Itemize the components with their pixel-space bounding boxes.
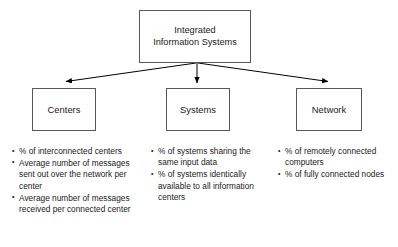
- node-integrated-information-systems[interactable]: Integrated Information Systems: [139, 10, 251, 63]
- bullet-item: Average number of messages sent out over…: [12, 158, 138, 192]
- bullet-item: % of remotely connected computers: [278, 146, 398, 169]
- bullet-list: % of remotely connected computers% of fu…: [278, 146, 398, 181]
- bullet-item: % of systems identically available to al…: [151, 169, 269, 203]
- connector-root-to-network: [198, 63, 328, 82]
- bullet-list-network: % of remotely connected computers% of fu…: [278, 146, 398, 181]
- bullet-item: Average number of messages received per …: [12, 193, 138, 216]
- bullet-item: % of systems sharing the same input data: [151, 146, 269, 169]
- bullet-list-systems: % of systems sharing the same input data…: [151, 146, 269, 204]
- node-network[interactable]: Network: [296, 88, 362, 131]
- node-label: Network: [312, 104, 346, 115]
- bullet-item: % of fully connected nodes: [278, 169, 398, 180]
- node-systems[interactable]: Systems: [166, 88, 230, 131]
- bullet-item: % of interconnected centers: [12, 146, 138, 157]
- bullet-list-centers: % of interconnected centersAverage numbe…: [12, 146, 138, 216]
- node-label: Integrated Information Systems: [153, 25, 237, 47]
- node-label: Centers: [48, 104, 81, 115]
- bullet-list: % of interconnected centersAverage numbe…: [12, 146, 138, 216]
- node-centers[interactable]: Centers: [32, 88, 96, 131]
- diagram-canvas: Integrated Information Systems Centers S…: [0, 0, 398, 247]
- connector-root-to-centers: [66, 63, 196, 82]
- bullet-list: % of systems sharing the same input data…: [151, 146, 269, 204]
- node-label: Systems: [180, 104, 216, 115]
